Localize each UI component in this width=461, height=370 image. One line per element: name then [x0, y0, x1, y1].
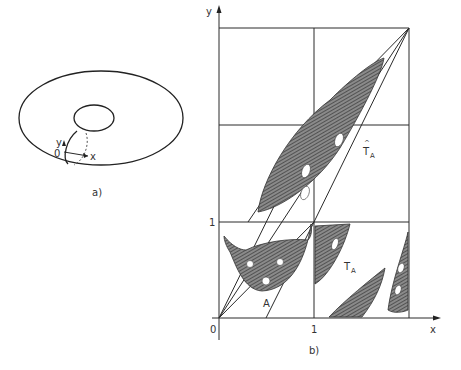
y-axis-label: y [206, 6, 212, 17]
y-axis-arrow-icon [217, 5, 222, 13]
region-a-label: A [263, 298, 270, 309]
x-tick-1: 1 [311, 324, 317, 335]
torus-inner-hole [74, 105, 114, 131]
frame-x-label: x [90, 151, 96, 162]
panel-b-cat-map: A T A ^ T A y x 0 1 1 b) [206, 5, 441, 356]
t-hat-main: T [362, 146, 370, 157]
meridian-front [65, 131, 77, 164]
t-hat-sub: A [370, 152, 375, 160]
y-tick-1: 1 [209, 217, 215, 228]
t-a-main: T [343, 261, 351, 272]
image-label-t-a: T A [343, 261, 356, 275]
panel-a-torus: y 0 x a) [19, 71, 183, 198]
x-axis-arrow-icon [433, 316, 441, 321]
y-arrow-head-icon [62, 140, 66, 146]
region-a-hole-3 [262, 277, 270, 285]
meridian-back [74, 133, 87, 165]
panel-b-caption: b) [309, 345, 319, 356]
x-axis-label: x [430, 324, 436, 335]
frame-origin-label: 0 [54, 148, 60, 159]
region-a-hole-2 [277, 259, 284, 266]
region-a-hole-1 [247, 261, 254, 268]
lifted-image-region [258, 58, 384, 212]
frame-y-label: y [56, 137, 62, 148]
figure-canvas: y 0 x a) [0, 0, 461, 370]
torus-outer-outline [19, 71, 183, 165]
x-tick-0: 0 [210, 324, 216, 335]
image-piece-2 [329, 268, 385, 317]
panel-a-caption: a) [92, 187, 102, 198]
lifted-label-t-hat-a: ^ T A [362, 139, 375, 160]
t-a-sub: A [351, 267, 356, 275]
image-piece-1 [315, 224, 350, 284]
